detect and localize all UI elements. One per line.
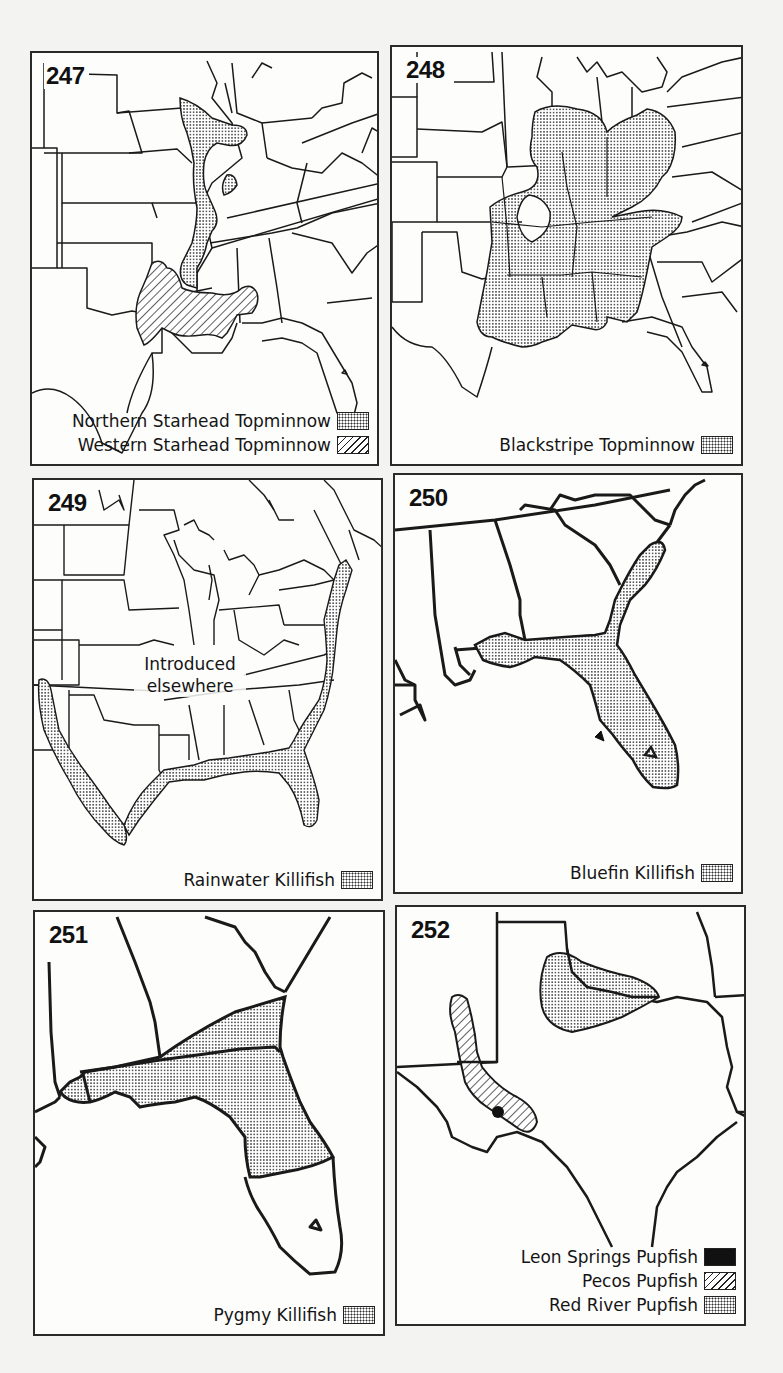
stipple-swatch-icon bbox=[704, 1296, 736, 1314]
stipple-swatch-icon bbox=[701, 436, 733, 454]
legend-item: Pygmy Killifish bbox=[213, 1304, 375, 1326]
figure-number: 249 bbox=[46, 490, 91, 516]
figure-number: 252 bbox=[409, 917, 454, 943]
legend-item: Leon Springs Pupfish bbox=[521, 1246, 736, 1268]
map-legend: Northern Starhead Topminnow Western Star… bbox=[72, 410, 369, 456]
solid-swatch-icon bbox=[704, 1248, 736, 1266]
legend-item: Western Starhead Topminnow bbox=[78, 434, 369, 456]
annotation-line: elsewhere bbox=[134, 675, 246, 697]
map-legend: Rainwater Killifish bbox=[183, 869, 373, 891]
map-panel-247: 247 Northern Starhead Topminnow Western … bbox=[30, 51, 379, 466]
legend-label: Blackstripe Topminnow bbox=[499, 434, 695, 456]
stipple-swatch-icon bbox=[343, 1306, 375, 1324]
legend-label: Leon Springs Pupfish bbox=[521, 1246, 698, 1268]
map-legend: Pygmy Killifish bbox=[213, 1304, 375, 1326]
figure-number: 248 bbox=[404, 57, 449, 83]
legend-label: Rainwater Killifish bbox=[183, 869, 335, 891]
stipple-swatch-icon bbox=[341, 871, 373, 889]
legend-label: Pygmy Killifish bbox=[213, 1304, 337, 1326]
map-panel-249: Introduced elsewhere 249 Rainwater Killi… bbox=[32, 478, 383, 901]
legend-label: Pecos Pupfish bbox=[582, 1270, 698, 1292]
legend-item: Northern Starhead Topminnow bbox=[72, 410, 369, 432]
legend-item: Rainwater Killifish bbox=[183, 869, 373, 891]
legend-item: Pecos Pupfish bbox=[582, 1270, 736, 1292]
legend-label: Bluefin Killifish bbox=[570, 862, 695, 884]
legend-label: Red River Pupfish bbox=[549, 1294, 698, 1316]
range-pygmy-killifish bbox=[60, 997, 333, 1177]
map-panel-252: 252 Leon Springs Pupfish Pecos Pupfish R… bbox=[395, 905, 746, 1326]
map-legend: Bluefin Killifish bbox=[570, 862, 733, 884]
stipple-swatch-icon bbox=[337, 412, 369, 430]
map-florida-251 bbox=[35, 912, 385, 1336]
hatch-swatch-icon bbox=[704, 1272, 736, 1290]
legend-item: Blackstripe Topminnow bbox=[499, 434, 733, 456]
legend-label: Western Starhead Topminnow bbox=[78, 434, 331, 456]
range-rainwater-killifish bbox=[39, 560, 352, 845]
introduced-annotation: Introduced elsewhere bbox=[134, 653, 246, 697]
map-southeast-us-250 bbox=[395, 475, 743, 894]
map-legend: Leon Springs Pupfish Pecos Pupfish Red R… bbox=[521, 1246, 736, 1316]
hatch-swatch-icon bbox=[337, 436, 369, 454]
map-eastern-us-248 bbox=[392, 47, 743, 466]
annotation-line: Introduced bbox=[134, 653, 246, 675]
map-eastern-us-247 bbox=[32, 53, 379, 466]
legend-item: Bluefin Killifish bbox=[570, 862, 733, 884]
range-blackstripe-topminnow bbox=[477, 106, 682, 347]
figure-number: 247 bbox=[44, 63, 89, 89]
figure-number: 250 bbox=[407, 485, 452, 511]
map-panel-250: 250 Bluefin Killifish bbox=[393, 473, 743, 894]
range-leon-springs-pupfish bbox=[492, 1106, 504, 1118]
range-red-river-pupfish bbox=[540, 953, 659, 1032]
legend-label: Northern Starhead Topminnow bbox=[72, 410, 331, 432]
map-panel-248: 248 Blackstripe Topminnow bbox=[390, 45, 743, 466]
stipple-swatch-icon bbox=[701, 864, 733, 882]
map-legend: Blackstripe Topminnow bbox=[499, 434, 733, 456]
map-panel-251: 251 Pygmy Killifish bbox=[33, 910, 385, 1336]
legend-item: Red River Pupfish bbox=[549, 1294, 736, 1316]
figure-number: 251 bbox=[47, 922, 92, 948]
